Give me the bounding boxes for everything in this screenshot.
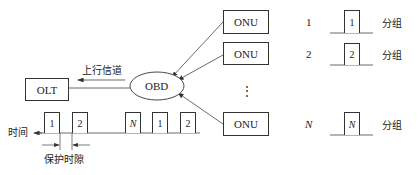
packet-number: 2 <box>78 118 83 129</box>
ellipsis-icon: ⋮ <box>241 85 253 97</box>
timeline-packet: 2 <box>180 112 196 133</box>
onu-index-1: 1 <box>306 17 312 28</box>
packet-label-2: 分组 <box>382 51 402 61</box>
olt-box: OLT <box>25 78 69 101</box>
obd-label: OBD <box>145 81 168 92</box>
onu-box-n: ONU <box>223 112 269 136</box>
onu-label: ONU <box>234 118 258 130</box>
onu-label: ONU <box>234 48 258 60</box>
upstream-channel-label: 上行信道 <box>82 66 122 76</box>
onu-label: ONU <box>234 16 258 28</box>
packet-number: N <box>130 118 137 129</box>
time-axis-label: 时间 <box>8 128 28 138</box>
packet-number: 2 <box>350 49 355 60</box>
packet-label-n: 分组 <box>382 121 402 131</box>
pon-tdma-diagram: OLT OBD 上行信道 ONU ONU ⋮ ONU 1 2 N 1 2 N 分… <box>0 0 420 175</box>
onu-packet-1: 1 <box>344 10 360 33</box>
guard-time-label: 保护时隙 <box>44 155 84 165</box>
packet-number: 1 <box>350 17 355 28</box>
packet-number: 1 <box>50 118 55 129</box>
timeline-packet: 1 <box>44 112 60 133</box>
packet-number: 1 <box>158 118 163 129</box>
packet-number: 2 <box>186 118 191 129</box>
onu-index-n: N <box>305 119 312 130</box>
onu-packet-2: 2 <box>344 43 360 65</box>
timeline-packet: 1 <box>152 112 168 133</box>
onu-index-2: 2 <box>306 49 312 60</box>
timeline-packet: N <box>125 112 141 133</box>
onu-box-2: ONU <box>223 42 269 65</box>
olt-label: OLT <box>37 84 57 96</box>
packet-number: N <box>349 119 356 130</box>
timeline-packet: 2 <box>72 112 88 133</box>
onu-box-1: ONU <box>223 10 269 34</box>
packet-label-1: 分组 <box>382 19 402 29</box>
onu-packet-n: N <box>344 112 360 135</box>
